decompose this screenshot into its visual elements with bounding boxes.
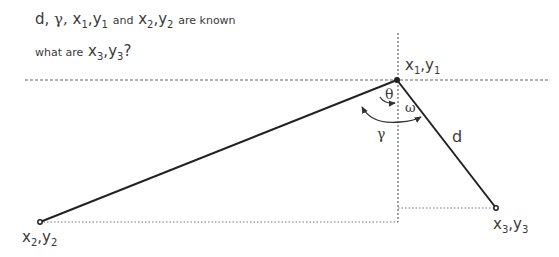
- p3-label: x3,y3: [493, 215, 528, 235]
- theta-label: θ: [385, 86, 393, 102]
- geometry-diagram: [0, 0, 559, 257]
- omega-label: ω: [405, 100, 416, 115]
- p1-x: x: [405, 56, 414, 74]
- sub: 3: [522, 224, 528, 235]
- p1-y: y: [425, 56, 434, 74]
- sub: 2: [51, 237, 57, 248]
- segment-p2-p1: [40, 80, 397, 222]
- p2-label: x2,y2: [22, 228, 57, 248]
- p1-label: x1,y1: [405, 56, 440, 76]
- p2-x: x: [22, 228, 31, 246]
- p3-x: x: [493, 215, 502, 233]
- p2-y: y: [42, 228, 51, 246]
- p3-y: y: [513, 215, 522, 233]
- point-p3: [494, 206, 498, 210]
- d-label: d: [452, 127, 462, 146]
- point-p1: [394, 77, 400, 83]
- sub: 1: [434, 65, 440, 76]
- point-p2: [38, 220, 42, 224]
- gamma-label: γ: [377, 126, 385, 142]
